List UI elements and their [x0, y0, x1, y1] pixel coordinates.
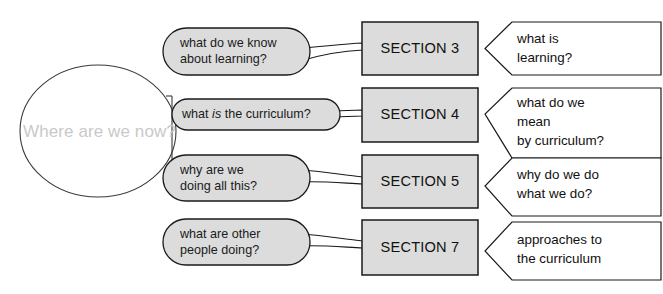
question-bubble-4[interactable]: [163, 219, 310, 265]
section-box-5[interactable]: [362, 155, 478, 208]
concept-map-diagram: Where are we now? what do we know about …: [0, 0, 663, 294]
where-are-we-now-circle[interactable]: [20, 65, 176, 197]
answer-callout-3[interactable]: [485, 22, 661, 75]
question-bubble-1[interactable]: [163, 28, 310, 75]
section-box-4[interactable]: [362, 88, 478, 142]
question-bubble-2[interactable]: [172, 99, 340, 130]
section-box-3[interactable]: [362, 22, 478, 75]
answer-callout-7[interactable]: [485, 222, 661, 280]
diagram-canvas: [0, 0, 663, 294]
question-bubble-3[interactable]: [163, 155, 310, 201]
answer-callout-5[interactable]: [485, 158, 661, 216]
answer-callout-4[interactable]: [485, 88, 661, 158]
section-box-7[interactable]: [362, 220, 478, 275]
